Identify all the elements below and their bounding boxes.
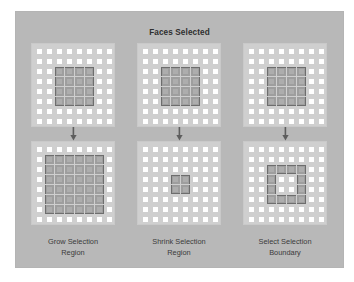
grid-cell-selected[interactable] — [45, 165, 54, 174]
grid-cell[interactable] — [65, 117, 74, 126]
grid-cell[interactable] — [297, 117, 306, 126]
grid-cell[interactable] — [171, 107, 180, 116]
grid-cell[interactable] — [45, 47, 54, 56]
grid-cell-selected[interactable] — [85, 87, 94, 96]
grid-cell-selected[interactable] — [267, 185, 276, 194]
grid-cell[interactable] — [95, 77, 104, 86]
grid-cell-selected[interactable] — [75, 97, 84, 106]
grid-cell[interactable] — [75, 145, 84, 154]
grid-cell[interactable] — [35, 185, 44, 194]
grid-cell[interactable] — [211, 155, 220, 164]
grid-cell[interactable] — [307, 47, 316, 56]
grid-cell[interactable] — [151, 155, 160, 164]
grid-cell[interactable] — [35, 175, 44, 184]
grid-cell[interactable] — [141, 215, 150, 224]
grid-cell[interactable] — [297, 155, 306, 164]
grid-cell[interactable] — [297, 47, 306, 56]
grid-cell[interactable] — [141, 185, 150, 194]
grid-cell[interactable] — [141, 67, 150, 76]
grid-cell[interactable] — [95, 57, 104, 66]
grid-cell-selected[interactable] — [181, 175, 190, 184]
grid-cell[interactable] — [211, 117, 220, 126]
grid-cell[interactable] — [35, 47, 44, 56]
grid-cell-selected[interactable] — [65, 87, 74, 96]
grid-cell-selected[interactable] — [161, 97, 170, 106]
grid-cell[interactable] — [307, 77, 316, 86]
grid-cell[interactable] — [35, 77, 44, 86]
grid-cell[interactable] — [277, 145, 286, 154]
grid-cell[interactable] — [297, 205, 306, 214]
grid-cell[interactable] — [287, 145, 296, 154]
grid-cell[interactable] — [307, 175, 316, 184]
grid-cell-selected[interactable] — [267, 77, 276, 86]
grid-cell[interactable] — [247, 97, 256, 106]
grid-cell[interactable] — [105, 155, 114, 164]
grid-cell[interactable] — [247, 165, 256, 174]
grid-cell-selected[interactable] — [181, 87, 190, 96]
grid-cell[interactable] — [85, 117, 94, 126]
grid-cell[interactable] — [247, 67, 256, 76]
grid-cell[interactable] — [75, 47, 84, 56]
grid-cell[interactable] — [277, 47, 286, 56]
grid-cell[interactable] — [181, 107, 190, 116]
grid-cell-selected[interactable] — [65, 195, 74, 204]
grid-cell[interactable] — [181, 165, 190, 174]
grid-cell[interactable] — [35, 215, 44, 224]
grid-cell-selected[interactable] — [65, 205, 74, 214]
grid-cell-selected[interactable] — [267, 67, 276, 76]
grid-cell[interactable] — [307, 215, 316, 224]
grid-cell[interactable] — [85, 215, 94, 224]
grid-cell[interactable] — [105, 67, 114, 76]
grid-cell[interactable] — [151, 47, 160, 56]
grid-cell[interactable] — [211, 195, 220, 204]
grid-cell[interactable] — [307, 155, 316, 164]
grid-cell-selected[interactable] — [297, 175, 306, 184]
grid-cell-selected[interactable] — [171, 97, 180, 106]
grid-cell[interactable] — [171, 155, 180, 164]
grid-cell[interactable] — [75, 117, 84, 126]
grid-cell[interactable] — [211, 175, 220, 184]
grid-cell[interactable] — [181, 57, 190, 66]
grid-cell[interactable] — [161, 145, 170, 154]
grid-cell-selected[interactable] — [171, 67, 180, 76]
grid-cell[interactable] — [181, 195, 190, 204]
grid-cell[interactable] — [307, 185, 316, 194]
grid-cell[interactable] — [161, 205, 170, 214]
grid-cell[interactable] — [257, 97, 266, 106]
grid-cell[interactable] — [201, 117, 210, 126]
grid-cell[interactable] — [201, 165, 210, 174]
grid-cell-selected[interactable] — [191, 77, 200, 86]
grid-cell[interactable] — [257, 145, 266, 154]
grid-cell[interactable] — [151, 77, 160, 86]
grid-cell[interactable] — [317, 165, 326, 174]
grid-cell[interactable] — [297, 107, 306, 116]
grid-cell[interactable] — [171, 47, 180, 56]
grid-cell-selected[interactable] — [267, 165, 276, 174]
grid-cell[interactable] — [247, 205, 256, 214]
grid-cell[interactable] — [55, 145, 64, 154]
grid-cell[interactable] — [257, 185, 266, 194]
grid-cell-selected[interactable] — [85, 155, 94, 164]
grid-cell[interactable] — [171, 117, 180, 126]
grid-cell-selected[interactable] — [95, 195, 104, 204]
grid-cell[interactable] — [95, 215, 104, 224]
grid-cell[interactable] — [307, 87, 316, 96]
grid-cell[interactable] — [307, 117, 316, 126]
grid-cell[interactable] — [65, 215, 74, 224]
grid-cell-selected[interactable] — [75, 195, 84, 204]
grid-cell-selected[interactable] — [65, 175, 74, 184]
grid-cell[interactable] — [85, 145, 94, 154]
grid-cell[interactable] — [277, 107, 286, 116]
grid-cell[interactable] — [141, 87, 150, 96]
grid-cell[interactable] — [247, 117, 256, 126]
grid-cell[interactable] — [161, 195, 170, 204]
grid-cell[interactable] — [267, 107, 276, 116]
grid-cell-selected[interactable] — [45, 175, 54, 184]
grid-cell[interactable] — [257, 117, 266, 126]
grid-cell-selected[interactable] — [181, 77, 190, 86]
grid-cell[interactable] — [85, 107, 94, 116]
grid-cell[interactable] — [55, 215, 64, 224]
grid-cell-selected[interactable] — [95, 155, 104, 164]
grid-cell-selected[interactable] — [181, 67, 190, 76]
grid-cell[interactable] — [277, 205, 286, 214]
